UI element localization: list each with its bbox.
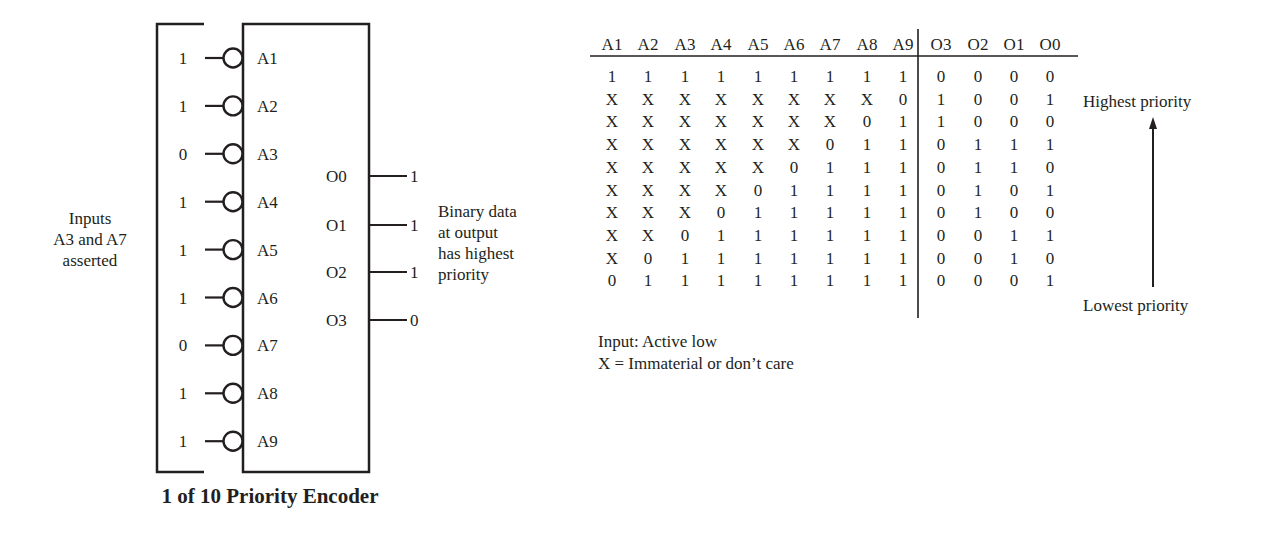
table-cell: 1: [899, 158, 908, 177]
table-cell: 1: [863, 226, 872, 245]
column-header-o1: O1: [1004, 35, 1025, 54]
table-cell: 1: [863, 249, 872, 268]
input-pin-label: A2: [257, 97, 278, 116]
table-cell: 1: [974, 135, 983, 154]
input-value: 0: [179, 336, 188, 355]
table-cell: 1: [974, 158, 983, 177]
input-pin-label: A3: [257, 145, 278, 164]
table-cell: 1: [899, 203, 908, 222]
table-cell: 0: [974, 112, 983, 131]
table-cell: X: [715, 90, 727, 109]
table-cell: 1: [826, 203, 835, 222]
note-dont-care: X = Immaterial or don’t care: [598, 354, 794, 373]
table-cell: 1: [1010, 135, 1019, 154]
column-header-o3: O3: [931, 35, 952, 54]
priority-arrow-icon: [1149, 117, 1157, 287]
table-cell: 1: [717, 271, 726, 290]
table-row: 1111111110000: [608, 67, 1055, 86]
table-cell: X: [642, 158, 654, 177]
table-cell: X: [679, 112, 691, 131]
table-cell: 0: [1010, 181, 1019, 200]
table-cell: 1: [937, 112, 946, 131]
annotation-line: asserted: [40, 250, 140, 271]
table-cell: 1: [681, 271, 690, 290]
table-cell: X: [606, 181, 618, 200]
column-header-a9: A9: [893, 35, 914, 54]
input-pin-label: A8: [257, 384, 278, 403]
table-cell: 0: [937, 67, 946, 86]
column-header-a2: A2: [638, 35, 659, 54]
table-cell: 1: [1046, 90, 1055, 109]
table-cell: X: [642, 135, 654, 154]
table-cell: 0: [937, 271, 946, 290]
table-cell: 0: [754, 181, 763, 200]
annotation-line: has highest: [438, 243, 517, 264]
table-cell: 1: [899, 249, 908, 268]
table-cell: 1: [717, 67, 726, 86]
output-value: 0: [410, 311, 419, 330]
table-cell: X: [679, 90, 691, 109]
input-value: 1: [179, 384, 188, 403]
table-cell: 1: [644, 271, 653, 290]
input-pin-a9: 1A9: [179, 432, 278, 452]
table-cell: 0: [974, 67, 983, 86]
output-value: 1: [410, 167, 419, 186]
table-cell: 1: [608, 67, 617, 86]
table-row: XXXXX01110110: [606, 158, 1054, 177]
inversion-bubble-icon: [224, 96, 243, 115]
table-cell: 1: [899, 181, 908, 200]
inputs-asserted-annotation: Inputs A3 and A7 asserted: [40, 208, 140, 271]
annotation-line: Inputs: [40, 208, 140, 229]
table-cell: X: [715, 158, 727, 177]
table-cell: 0: [937, 203, 946, 222]
table-cell: 1: [790, 249, 799, 268]
table-cell: 1: [754, 203, 763, 222]
table-cell: 1: [863, 67, 872, 86]
table-cell: X: [752, 112, 764, 131]
annotation-line: A3 and A7: [40, 229, 140, 250]
output-pin-label: O3: [326, 311, 347, 330]
table-cell: 0: [974, 90, 983, 109]
table-cell: 0: [1046, 112, 1055, 131]
table-cell: X: [606, 90, 618, 109]
table-row: X011111110010: [606, 249, 1054, 268]
table-cell: X: [642, 90, 654, 109]
table-cell: 0: [1010, 90, 1019, 109]
output-pin-label: O1: [326, 216, 347, 235]
column-header-a3: A3: [675, 35, 696, 54]
output-pin-label: O2: [326, 263, 347, 282]
inversion-bubble-icon: [224, 49, 243, 68]
column-header-o0: O0: [1040, 35, 1061, 54]
table-row: XX01111110011: [606, 226, 1054, 245]
table-cell: 0: [937, 226, 946, 245]
input-value: 1: [179, 241, 188, 260]
output-pin-o3: O30: [326, 311, 419, 330]
table-cell: 1: [863, 181, 872, 200]
table-cell: 1: [863, 135, 872, 154]
table-cell: 1: [1046, 135, 1055, 154]
table-cell: 1: [1010, 226, 1019, 245]
output-pin-o0: O01: [326, 167, 419, 186]
output-value: 1: [410, 263, 419, 282]
table-cell: 1: [1046, 271, 1055, 290]
table-cell: 0: [644, 249, 653, 268]
note-active-low: Input: Active low: [598, 332, 718, 351]
output-value: 1: [410, 216, 419, 235]
table-cell: 1: [754, 249, 763, 268]
table-cell: 1: [1010, 249, 1019, 268]
table-cell: X: [861, 90, 873, 109]
input-value: 1: [179, 97, 188, 116]
table-row: XXXX011110101: [606, 181, 1054, 200]
table-cell: 1: [899, 112, 908, 131]
table-cell: 0: [863, 112, 872, 131]
table-cell: X: [715, 135, 727, 154]
input-pin-label: A4: [257, 193, 278, 212]
table-cell: 0: [681, 226, 690, 245]
table-cell: X: [679, 158, 691, 177]
input-pin-a7: 0A7: [179, 336, 279, 356]
inversion-bubble-icon: [224, 288, 243, 307]
table-cell: 1: [899, 67, 908, 86]
input-value: 0: [179, 145, 188, 164]
output-pins: O01O11O21O30: [326, 167, 419, 330]
input-pin-a1: 1A1: [179, 49, 278, 69]
